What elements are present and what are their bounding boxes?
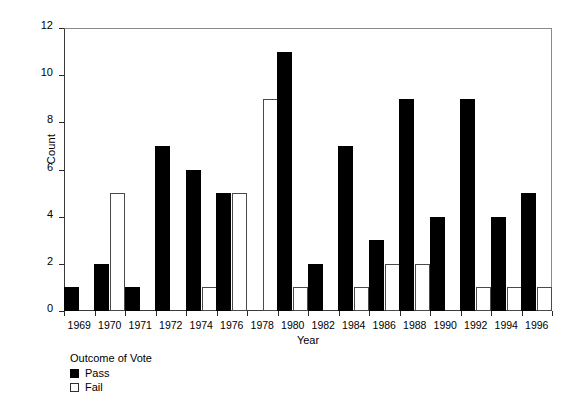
y-tick-12: 12 [0,28,64,29]
bar-pass-1980 [277,52,292,311]
x-tick-label-1976: 1976 [220,319,243,331]
x-tick-mark-1984 [339,311,340,316]
legend-swatch-fail-icon [70,383,79,392]
bar-chart: Count 024681012 196919701971197219741976… [0,0,579,410]
x-tick-label-1990: 1990 [434,319,457,331]
x-tick-label-1992: 1992 [464,319,487,331]
y-tick-label: 8 [47,114,53,125]
y-tick-6: 6 [0,170,64,171]
bar-fail-1984 [354,287,369,311]
x-tick-label-1982: 1982 [312,319,335,331]
y-tick-label: 10 [41,67,53,78]
x-tick-mark-1990 [430,311,431,316]
legend-label-pass: Pass [85,367,109,380]
x-tick-mark-end [552,311,553,316]
x-tick-label-1986: 1986 [373,319,396,331]
bar-fail-1994 [507,287,522,311]
bar-fail-1986 [385,264,400,311]
x-tick-label-1972: 1972 [159,319,182,331]
bar-fail-1978 [263,99,278,311]
bar-pass-1984 [338,146,353,311]
y-tick-label: 2 [47,256,53,267]
y-tick-2: 2 [0,264,64,265]
y-tick-mark [59,122,64,123]
x-tick-mark-1982 [308,311,309,316]
bar-pass-1986 [369,240,384,311]
bar-fail-1974 [202,287,217,311]
x-tick-mark-1986 [369,311,370,316]
y-tick-label: 4 [47,209,53,220]
x-tick-label-1984: 1984 [342,319,365,331]
x-tick-label-1988: 1988 [403,319,426,331]
y-tick-mark [59,217,64,218]
x-tick-mark-1994 [491,311,492,316]
x-tick-mark-1992 [461,311,462,316]
bar-pass-1988 [399,99,414,311]
x-tick-mark-1996 [522,311,523,316]
legend: Outcome of Vote Pass Fail [70,352,152,394]
x-tick-mark-1971 [125,311,126,316]
bar-pass-1990 [430,217,445,311]
y-tick-0: 0 [0,311,64,312]
x-tick-mark-1988 [400,311,401,316]
x-tick-label-1971: 1971 [129,319,152,331]
bar-pass-1976 [216,193,231,311]
bar-fail-1996 [537,287,552,311]
legend-label-fail: Fail [85,381,103,394]
y-tick-mark [59,264,64,265]
legend-item-pass: Pass [70,367,152,380]
x-tick-mark-1972 [156,311,157,316]
y-tick-label: 6 [47,162,53,173]
y-tick-10: 10 [0,75,64,76]
x-tick-mark-1970 [95,311,96,316]
x-tick-label-1974: 1974 [190,319,213,331]
y-tick-mark [59,170,64,171]
bar-pass-1994 [491,217,506,311]
y-tick-mark [59,75,64,76]
bar-pass-1992 [460,99,475,311]
legend-item-fail: Fail [70,381,152,394]
x-tick-label-1969: 1969 [68,319,91,331]
x-tick-label-1996: 1996 [525,319,548,331]
x-tick-label-1978: 1978 [251,319,274,331]
bar-pass-1996 [521,193,536,311]
y-tick-label: 12 [41,20,53,31]
x-tick-mark-1978 [247,311,248,316]
bar-pass-1972 [155,146,170,311]
bar-pass-1982 [308,264,323,311]
x-tick-mark-1969 [64,311,65,316]
bar-fail-1988 [415,264,430,311]
bar-pass-1971 [125,287,140,311]
y-tick-label: 0 [47,303,53,314]
bar-pass-1969 [64,287,79,311]
x-tick-label-1970: 1970 [98,319,121,331]
legend-title: Outcome of Vote [70,352,152,365]
bar-fail-1992 [476,287,491,311]
legend-swatch-pass-icon [70,369,79,378]
x-tick-mark-1980 [278,311,279,316]
y-tick-4: 4 [0,217,64,218]
y-tick-mark [59,28,64,29]
x-tick-label-1994: 1994 [495,319,518,331]
x-tick-mark-1976 [217,311,218,316]
bar-fail-1970 [110,193,125,311]
bar-fail-1980 [293,287,308,311]
bar-fail-1976 [232,193,247,311]
bar-pass-1974 [186,170,201,312]
x-tick-label-1980: 1980 [281,319,304,331]
bar-pass-1970 [94,264,109,311]
x-tick-mark-1974 [186,311,187,316]
x-axis-title: Year [64,334,552,346]
y-tick-8: 8 [0,122,64,123]
